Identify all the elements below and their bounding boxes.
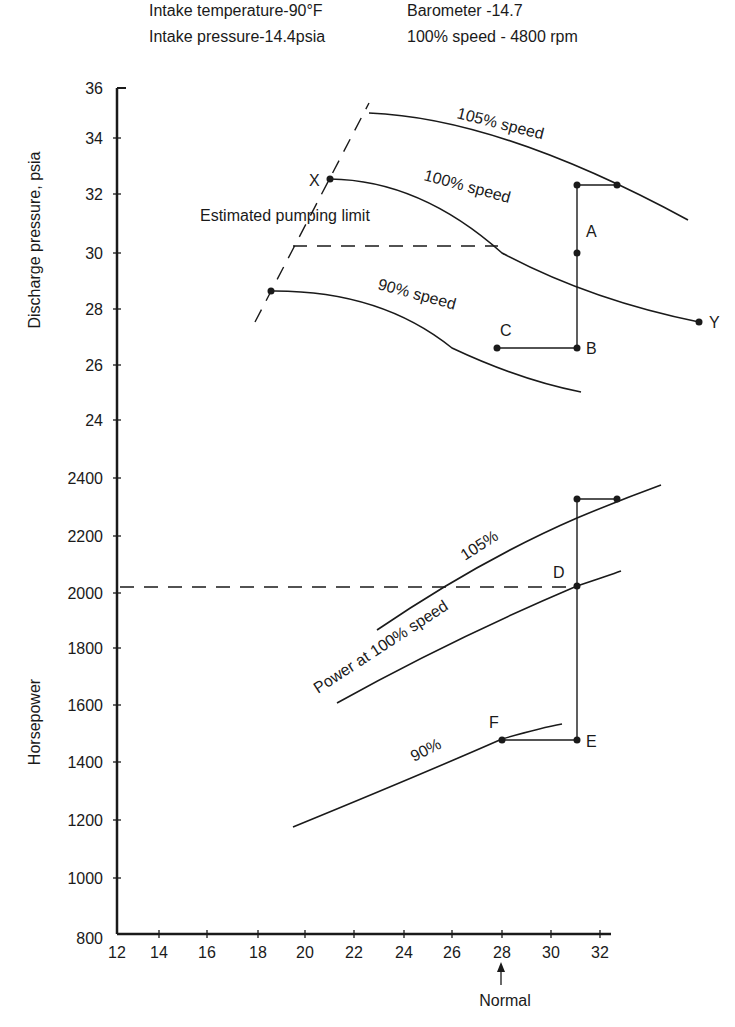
label-90-speed: 90% speed (376, 275, 458, 312)
hp-curve-105 (377, 485, 661, 630)
y-upper-tick-labels: 36 34 32 30 28 26 24 (85, 80, 103, 429)
label-x: X (309, 172, 320, 189)
y-upper-axis-title: Discharge pressure, psia (26, 151, 43, 328)
label-105-speed: 105% speed (455, 104, 545, 142)
point-105-top-dot (574, 182, 581, 189)
y-tick-label: 30 (85, 245, 103, 262)
normal-label: Normal (479, 992, 531, 1009)
pressure-points (268, 176, 703, 352)
x-tick-label: 12 (108, 944, 126, 961)
label-hp-100: Power at 100% speed (310, 597, 451, 697)
point-f-dot (499, 737, 506, 744)
x-tick-label: 16 (198, 944, 216, 961)
y-tick-label: 2000 (67, 585, 103, 602)
y-tick-label: 1400 (67, 754, 103, 771)
hp-point-labels: D E F (489, 564, 597, 750)
x-tick-label: 20 (296, 944, 314, 961)
x-tick-label: 32 (591, 944, 609, 961)
label-y: Y (709, 314, 720, 331)
point-e-dot (574, 737, 581, 744)
normal-marker: Normal (479, 962, 531, 1009)
y-tick-label: 32 (85, 186, 103, 203)
label-f: F (489, 714, 499, 731)
y-tick-label: 2400 (67, 470, 103, 487)
y-tick-label: 1000 (67, 870, 103, 887)
arrowhead-icon (497, 962, 505, 972)
label-e: E (586, 733, 597, 750)
point-hp105-curve-dot (614, 496, 621, 503)
x-tick-label: 18 (249, 944, 267, 961)
label-b: B (586, 340, 597, 357)
x-tick-label: 30 (542, 944, 560, 961)
y-tick-label: 34 (85, 130, 103, 147)
point-d-dot (574, 583, 581, 590)
horsepower-curves (120, 485, 661, 827)
point-hp105-top-dot (574, 496, 581, 503)
point-105-curve-dot (614, 182, 621, 189)
point-a-dot (574, 250, 581, 257)
x-tick-label: 14 (150, 944, 168, 961)
y-tick-label: 800 (76, 930, 103, 947)
y-tick-label: 1200 (67, 812, 103, 829)
label-d: D (553, 564, 565, 581)
chart-canvas: 12 14 16 18 20 22 24 26 28 30 32 Normal … (0, 0, 735, 1027)
y-tick-label: 26 (85, 357, 103, 374)
y-tick-label: 2200 (67, 528, 103, 545)
label-pumping-limit: Estimated pumping limit (200, 207, 370, 224)
label-100-speed: 100% speed (422, 166, 512, 205)
x-tick-label: 24 (395, 944, 413, 961)
x-tick-label: 26 (443, 944, 461, 961)
y-lower-axis-title: Horsepower (26, 678, 43, 765)
label-c: C (500, 322, 512, 339)
y-tick-label: 24 (85, 412, 103, 429)
y-lower-tick-labels: 2400 2200 2000 1800 1600 1400 1200 1000 … (67, 470, 103, 947)
y-tick-label: 1600 (67, 697, 103, 714)
pressure-point-labels: X Y A B C (309, 172, 720, 357)
x-tick-label: 22 (345, 944, 363, 961)
y-tick-label: 1800 (67, 640, 103, 657)
horsepower-points (499, 496, 621, 744)
curve-100-speed (330, 179, 699, 322)
pressure-curves (255, 103, 699, 392)
y-tick-label: 36 (85, 80, 103, 97)
x-tick-labels: 12 14 16 18 20 22 24 26 28 30 32 (108, 944, 609, 961)
point-y-dot (696, 319, 703, 326)
point-90-start-dot (268, 288, 275, 295)
point-b-dot (574, 345, 581, 352)
curve-90-speed (271, 291, 581, 392)
x-tick-label: 28 (493, 944, 511, 961)
y-tick-label: 28 (85, 301, 103, 318)
point-c-dot (494, 345, 501, 352)
point-x-dot (327, 176, 334, 183)
label-a: A (586, 223, 597, 240)
label-hp-90: 90% (408, 735, 444, 765)
